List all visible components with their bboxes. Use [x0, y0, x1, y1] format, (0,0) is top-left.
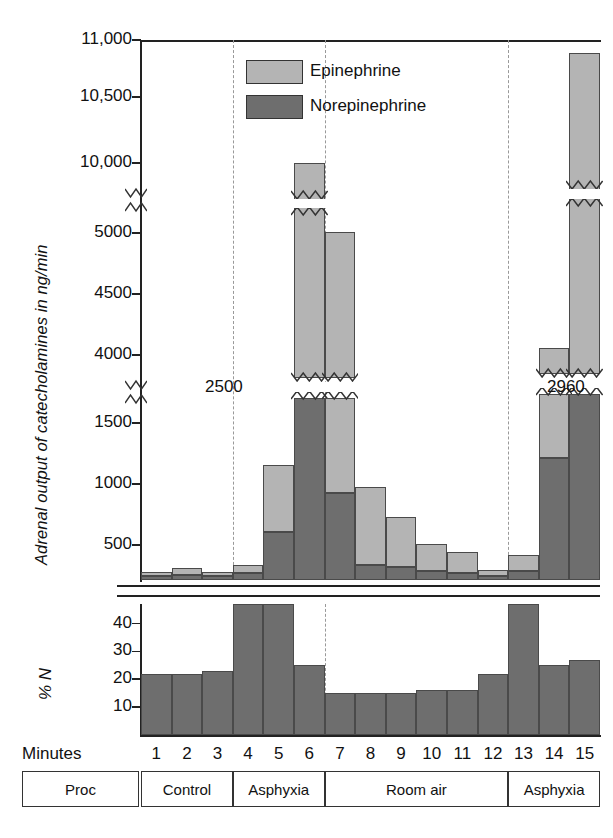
- legend-swatch-epinephrine: [246, 60, 303, 84]
- pn-bar-minute-1: [141, 674, 172, 735]
- y-tick-mark: [132, 39, 141, 41]
- bar-epinephrine-minute-3: [202, 572, 233, 577]
- panel-separator-top: [117, 585, 600, 587]
- pn-bar-minute-3: [202, 671, 233, 735]
- bar-epinephrine-minute-11: [447, 552, 478, 573]
- break-annotation-2960: 2960: [547, 377, 585, 397]
- pn-bar-minute-14: [539, 665, 570, 735]
- bar-norepinephrine-minute-2: [172, 575, 203, 580]
- pn-bar-minute-10: [416, 690, 447, 735]
- phase-divider-minute-3: [233, 40, 234, 580]
- y-tick-mark: [132, 483, 141, 485]
- y-tick-label-500: 500: [20, 534, 132, 554]
- bar-epinephrine-minute-2: [172, 568, 203, 575]
- bar-break-gap-minute-7: [322, 382, 359, 392]
- legend-label-norepinephrine: Norepinephrine: [310, 96, 426, 116]
- y-tick-label-10500: 10,500: [20, 86, 132, 106]
- bar-epinephrine-upper-minute-7: [325, 232, 356, 378]
- pn-tick-mark-10: [132, 706, 141, 708]
- bar-epinephrine-lower-minute-14: [539, 394, 570, 458]
- y-tick-mark: [132, 354, 141, 356]
- bar-epinephrine-minute-5: [263, 465, 294, 531]
- pn-bar-minute-7: [325, 693, 356, 735]
- y-tick-label-5000: 5000: [20, 222, 132, 242]
- y-tick-label-4000: 4000: [20, 344, 132, 364]
- legend-swatch-norepinephrine: [246, 95, 303, 119]
- bar-norepinephrine-minute-13: [508, 571, 539, 580]
- bar-norepinephrine-minute-4: [233, 573, 264, 580]
- y-tick-label-1500: 1500: [20, 412, 132, 432]
- break-annotation-2500: 2500: [205, 377, 243, 397]
- pn-tick-mark-20: [132, 678, 141, 680]
- pn-bar-minute-11: [447, 690, 478, 735]
- y-tick-mark: [132, 544, 141, 546]
- bar-norepinephrine-minute-12: [478, 576, 509, 580]
- pn-tick-label-40: 40: [70, 613, 132, 633]
- bar-epinephrine-minute-4: [233, 565, 264, 574]
- bar-norepinephrine-minute-15: [569, 394, 600, 580]
- axis-break-zigzag: [125, 186, 147, 200]
- bar-break-gap-upper-minute-6: [291, 199, 328, 208]
- top-axis-line: [140, 40, 601, 42]
- bar-epinephrine-minute-10: [416, 544, 447, 571]
- pn-bar-minute-13: [508, 604, 539, 735]
- bar-norepinephrine-minute-7: [325, 493, 356, 580]
- pn-x-axis-line: [140, 735, 601, 737]
- procedure-cell-asphyxia-1: Asphyxia: [233, 771, 325, 807]
- pn-axis-title: % N: [36, 668, 56, 700]
- bar-norepinephrine-minute-8: [355, 565, 386, 580]
- bar-norepinephrine-minute-10: [416, 571, 447, 580]
- y-tick-mark: [132, 162, 141, 164]
- pn-bar-minute-2: [172, 674, 203, 735]
- y-tick-mark: [132, 422, 141, 424]
- legend-label-epinephrine: Epinephrine: [310, 61, 401, 81]
- bar-epinephrine-minute-13: [508, 555, 539, 571]
- bar-norepinephrine-minute-6: [294, 398, 325, 580]
- y-tick-mark: [132, 293, 141, 295]
- axis-break-zigzag: [125, 392, 147, 406]
- bar-epinephrine-minute-1: [141, 572, 172, 576]
- panel-separator-bottom: [117, 595, 600, 597]
- bar-norepinephrine-minute-5: [263, 532, 294, 580]
- bar-epinephrine-minute-9: [386, 517, 417, 567]
- pn-bar-minute-5: [263, 604, 294, 735]
- procedure-cell-control-0: Control: [141, 771, 233, 807]
- pn-bar-minute-12: [478, 674, 509, 735]
- axis-break-zigzag: [125, 200, 147, 214]
- bar-epinephrine-lower-minute-7: [325, 398, 356, 493]
- pn-tick-label-20: 20: [70, 668, 132, 688]
- y-axis-line: [140, 40, 142, 582]
- bar-epinephrine-minute-12: [478, 570, 509, 576]
- pn-bar-minute-8: [355, 693, 386, 735]
- bar-break-gap-upper-minute-15: [566, 189, 603, 199]
- bar-norepinephrine-minute-11: [447, 573, 478, 580]
- minute-tick-label-15: 15: [565, 744, 604, 764]
- chart-figure: Adrenal output of catecholamines in ng/m…: [0, 0, 613, 838]
- phase-divider-minute-12: [508, 40, 509, 580]
- bar-norepinephrine-minute-3: [202, 576, 233, 580]
- pn-bar-minute-6: [294, 665, 325, 735]
- pn-bar-minute-9: [386, 693, 417, 735]
- bar-norepinephrine-minute-14: [539, 458, 570, 580]
- pn-tick-mark-30: [132, 651, 141, 653]
- y-tick-mark: [132, 96, 141, 98]
- procedure-header-cell: Proc: [22, 771, 139, 807]
- procedure-cell-asphyxia-3: Asphyxia: [508, 771, 600, 807]
- pn-tick-label-30: 30: [70, 640, 132, 660]
- bar-epinephrine-minute-8: [355, 487, 386, 565]
- y-tick-label-10000: 10,000: [20, 152, 132, 172]
- x-axis-title: Minutes: [22, 744, 82, 764]
- y-tick-label-4500: 4500: [20, 283, 132, 303]
- axis-break-zigzag: [125, 378, 147, 392]
- y-tick-label-11000: 11,000: [20, 29, 132, 49]
- y-tick-mark: [132, 232, 141, 234]
- pn-tick-mark-40: [132, 623, 141, 625]
- procedure-cell-room-air-2: Room air: [325, 771, 509, 807]
- pn-tick-label-10: 10: [70, 696, 132, 716]
- pn-bar-minute-15: [569, 660, 600, 735]
- y-tick-label-1000: 1000: [20, 473, 132, 493]
- bar-norepinephrine-minute-9: [386, 567, 417, 580]
- bar-epinephrine-upper-minute-15: [569, 53, 600, 374]
- pn-bar-minute-4: [233, 604, 264, 735]
- bar-norepinephrine-minute-1: [141, 576, 172, 580]
